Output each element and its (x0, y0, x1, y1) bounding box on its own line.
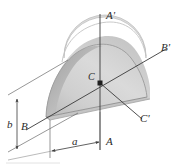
centroid-point (98, 81, 103, 86)
diagram-svg (0, 0, 177, 165)
label-axis-b: B (21, 121, 28, 132)
label-axis-b-prime: B' (161, 42, 170, 53)
label-dimension-a: a (72, 136, 78, 147)
label-axis-a-prime: A' (106, 10, 115, 21)
label-centroid-c: C (88, 72, 95, 82)
label-axis-a: A (106, 136, 113, 147)
label-axis-c-prime: C' (140, 113, 150, 124)
figure-canvas: A' A B B' C C' b a (0, 0, 177, 165)
dim-a-leader (8, 151, 52, 160)
dim-b-ext-bottom (8, 113, 78, 152)
label-dimension-b: b (7, 119, 13, 130)
